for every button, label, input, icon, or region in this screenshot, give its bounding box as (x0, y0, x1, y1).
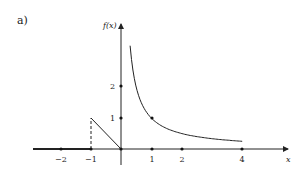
reciprocal-curve (130, 46, 242, 142)
marked-points (59, 84, 243, 150)
x-tick-label: 2 (179, 155, 184, 164)
function-plot: a) −2 −1 1 2 4 1 2 f(x) x (0, 0, 303, 175)
linear-segment (91, 118, 121, 149)
x-tick-label: 1 (149, 155, 154, 164)
y-axis-label: f(x) (102, 21, 117, 30)
y-tick-label: 1 (110, 114, 115, 123)
x-tick-label: 4 (239, 155, 244, 164)
part-label: a) (17, 14, 28, 27)
x-axis-label: x (286, 155, 291, 164)
x-tick-label: −2 (55, 155, 67, 164)
y-tick-label: 2 (110, 82, 115, 91)
x-tick-label: −1 (85, 155, 97, 164)
